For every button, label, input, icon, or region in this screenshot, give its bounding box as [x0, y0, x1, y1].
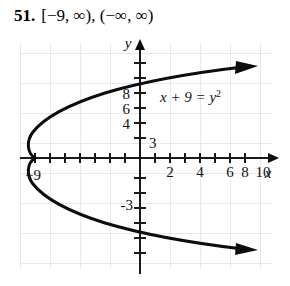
problem-number: 51.	[14, 6, 35, 25]
y-tick-label-neg3: -3	[121, 197, 134, 213]
y-tick-label-8: 8	[123, 86, 131, 102]
y-tick-label-4: 4	[123, 116, 131, 132]
x-tick-label-6: 6	[226, 164, 234, 180]
vertex-label-neg9: −9	[25, 167, 41, 183]
equation-text: x + 9 = y	[159, 89, 216, 105]
y-tick-label-3: 3	[149, 135, 157, 151]
problem-answer-intervals: [−9, ∞), (−∞, ∞)	[41, 6, 153, 25]
equation-annotation: x + 9 = y2	[159, 88, 221, 105]
x-tick-label-4: 4	[196, 164, 204, 180]
x-tick-label-2: 2	[166, 164, 174, 180]
graph-figure: y x 8 6 4 3 -3 2 4 6 8 10 −9 x + 9 = y2	[0, 36, 290, 286]
answer-line: 51.[−9, ∞), (−∞, ∞)	[14, 6, 153, 26]
x-tick-label-10: 10	[256, 164, 271, 180]
y-axis-label: y	[123, 36, 132, 51]
x-tick-label-8: 8	[241, 164, 249, 180]
equation-exponent: 2	[216, 88, 221, 99]
y-tick-label-6: 6	[123, 101, 131, 117]
